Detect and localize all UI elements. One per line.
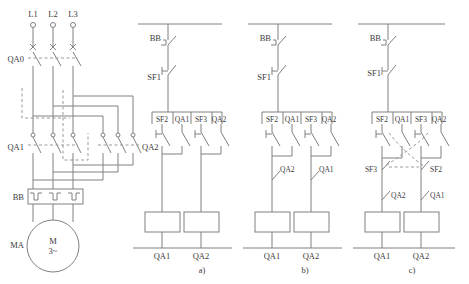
b-sf1-actuator — [272, 67, 278, 75]
a-sf2-actuator — [156, 130, 162, 138]
c-bb-actuator — [381, 40, 386, 45]
a-qa1-hold-return — [162, 146, 182, 154]
a-coil-qa2 — [184, 212, 219, 232]
qa2-output-tie-1 — [33, 153, 103, 180]
crossover-dashed-center — [63, 90, 88, 160]
a-sf3-actuator — [195, 130, 201, 138]
c-sf1-actuator — [382, 67, 388, 75]
c-qa1-hold-return — [382, 146, 402, 158]
b-qa2-hold-blade — [331, 132, 339, 146]
b-left-interlock-label: QA2 — [280, 165, 295, 174]
c-bb-blade — [388, 36, 396, 45]
b-overload-contact-label: BB — [260, 33, 272, 43]
control-circuit-c: BB SF1 SF2 QA1 SF3 QA2 SF3 QA2 — [353, 24, 455, 275]
b-sf1-blade — [278, 65, 286, 75]
a-sf1-actuator — [162, 67, 168, 75]
contact-terminal-6 — [131, 133, 135, 137]
crossover-wire-c — [33, 116, 103, 133]
b-bb-actuator — [271, 40, 276, 45]
a-bb-blade — [168, 36, 176, 45]
b-right-interlock-blade — [311, 171, 319, 180]
b-qa2-hold-return — [311, 146, 331, 156]
c-overload-contact-label: BB — [370, 33, 382, 43]
contactor-forward-label: QA1 — [7, 142, 24, 152]
overload-relay-label: BB — [13, 192, 25, 202]
a-caption: a) — [199, 265, 206, 275]
c-left-sf3-blade — [382, 161, 390, 170]
b-coil-qa2 — [294, 212, 329, 232]
contact-terminal-2 — [51, 133, 55, 137]
c-right-interlock-label: SF2 — [430, 165, 442, 174]
qa0-blade-2 — [53, 52, 61, 66]
main-switch-label: QA0 — [7, 54, 24, 64]
b-coil-qa1 — [255, 212, 290, 232]
qa2-output-tie-2 — [53, 153, 118, 172]
c-qa1-hold-blade — [402, 132, 410, 146]
b-header-sf3: SF3 — [305, 115, 317, 124]
terminal-l3 — [71, 23, 76, 28]
a-qa2-hold-blade — [221, 132, 229, 146]
c-sf1-blade — [388, 65, 396, 75]
contact-terminal-3 — [71, 133, 75, 137]
c-qa2-hold-return — [421, 146, 441, 158]
qa0-blade-1 — [33, 52, 41, 66]
overload-output-leads — [33, 204, 73, 222]
terminal-l2 — [51, 23, 56, 28]
a-bb-actuator — [161, 40, 166, 45]
c-left-interlock-label: SF3 — [365, 165, 377, 174]
c-header-qa2: QA2 — [432, 115, 447, 124]
control-circuit-b: BB SF1 SF2 QA1 SF3 QA2 QA2 — [243, 24, 342, 275]
contact-terminal-1 — [31, 133, 35, 137]
c-sf3-actuator — [415, 130, 421, 138]
c-coil-bottom-leads — [382, 232, 421, 248]
a-header-qa1: QA1 — [175, 115, 190, 124]
c-left-qa2-blade — [382, 191, 390, 200]
a-sf2-blade — [162, 132, 170, 146]
a-coil-bottom-leads — [162, 232, 201, 248]
c-sf2-blade — [382, 132, 390, 146]
contact-terminal-5 — [116, 133, 120, 137]
supply-label-l1: L1 — [28, 9, 37, 19]
b-right-interlock-label: QA1 — [319, 165, 334, 174]
c-mech-link-sf2-to-sf2nc — [389, 133, 424, 166]
a-sf3-blade — [201, 132, 209, 146]
b-header-qa1: QA1 — [285, 115, 300, 124]
c-header-sf3: SF3 — [415, 115, 427, 124]
contactor-reverse-label: QA2 — [142, 142, 159, 152]
c-header-qa1: QA1 — [395, 115, 410, 124]
c-qa2-hold-blade — [441, 132, 449, 146]
b-qa1-hold-return — [272, 146, 292, 156]
b-caption: b) — [301, 265, 308, 275]
c-stop-button-label: SF1 — [367, 68, 381, 78]
a-bottom-label-qa2: QA2 — [193, 251, 210, 261]
contact-terminal-4 — [101, 133, 105, 137]
c-left-aux-label: QA2 — [391, 191, 406, 200]
a-header-sf3: SF3 — [195, 115, 207, 124]
b-qa1-hold-blade — [292, 132, 300, 146]
b-sf3-actuator — [305, 130, 311, 138]
b-header-sf2: SF2 — [266, 115, 278, 124]
c-coil-qa1 — [365, 212, 400, 232]
qa0-outgoing-leads — [33, 66, 73, 133]
supply-label-l2: L2 — [48, 9, 57, 19]
supply-leads — [33, 28, 73, 48]
a-overload-contact-label: BB — [150, 33, 162, 43]
a-qa2-hold-return — [201, 146, 221, 154]
qa0-blade-3 — [73, 52, 81, 66]
a-stop-button-label: SF1 — [147, 72, 161, 82]
c-header-sf2: SF2 — [376, 115, 388, 124]
terminal-l1 — [31, 23, 36, 28]
c-bottom-label-qa2: QA2 — [413, 251, 430, 261]
motor-designation-label: MA — [10, 240, 25, 250]
supply-label-l3: L3 — [68, 9, 77, 19]
b-sf2-actuator — [266, 130, 272, 138]
b-bb-blade — [278, 36, 286, 45]
b-stop-button-label: SF1 — [257, 72, 271, 82]
c-right-qa1-blade — [421, 191, 429, 200]
b-coil-bottom-leads — [272, 232, 311, 248]
motor-symbol-m: M — [49, 236, 57, 246]
a-coil-qa1 — [145, 212, 180, 232]
overload-relay-body — [28, 189, 83, 204]
c-caption: c) — [409, 265, 416, 275]
motor-symbol-phases: 3~ — [49, 246, 58, 256]
